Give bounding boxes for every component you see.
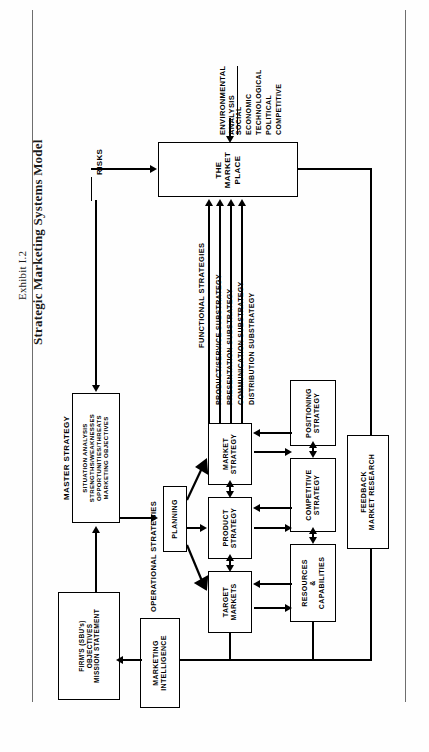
positioning-competitive-head-up — [309, 441, 317, 448]
functional-strategies-label: FUNCTIONAL STRATEGIES — [198, 243, 207, 348]
node-planning-label: PLANNING — [171, 499, 179, 538]
env-factor-economic: ECONOMIC — [245, 94, 253, 135]
node-market-strategy[interactable]: MARKET STRATEGY — [208, 423, 252, 485]
feedback-bottom-bus — [168, 659, 372, 661]
functional-arrow-1-head — [205, 199, 213, 206]
functional-arrow-4-shaft — [241, 205, 243, 423]
target-to-resources-shaft — [254, 607, 286, 609]
risks-arrow-head — [150, 165, 157, 173]
env-factor-political: POLITICAL — [265, 95, 273, 135]
planning-to-product-shaft — [187, 527, 201, 529]
node-target-markets-label: TARGET MARKETS — [222, 583, 239, 620]
node-feedback-market-research[interactable]: FEEDBACK MARKET RESEARCH — [347, 435, 389, 549]
node-marketplace[interactable]: THE MARKET PLACE — [158, 142, 298, 197]
node-feedback-market-research-label: FEEDBACK MARKET RESEARCH — [360, 454, 377, 530]
positioning-competitive-head-down — [309, 451, 317, 458]
target-to-resources-head — [285, 604, 292, 612]
positioning-to-market-head — [253, 429, 260, 437]
competitive-resources-head-up — [309, 527, 317, 534]
resources-to-target-head — [253, 580, 260, 588]
marketplace-to-feedback-down-shaft — [370, 168, 372, 436]
firm-to-master-head — [92, 526, 100, 533]
competitive-to-product-shaft — [260, 507, 292, 509]
functional-arrow-3-shaft — [230, 205, 232, 423]
node-market-strategy-label: MARKET STRATEGY — [222, 434, 239, 474]
page-rule-right — [405, 10, 406, 702]
node-marketing-intelligence[interactable]: MARKETING INTELLIGENCE — [140, 618, 180, 708]
node-target-markets[interactable]: TARGET MARKETS — [208, 571, 252, 633]
env-factor-competitive: COMPETITIVE — [275, 84, 283, 135]
node-resources-capabilities-label: RESOURCES & CAPABILITIES — [301, 557, 326, 609]
intelligence-to-firm-shaft — [122, 659, 142, 661]
risks-arrow-shaft — [91, 168, 153, 170]
planning-to-target-arrowhead — [196, 577, 207, 589]
planning-to-product-head — [200, 524, 207, 532]
node-planning[interactable]: PLANNING — [163, 486, 187, 552]
functional-arrow-1-shaft — [208, 205, 210, 423]
node-marketing-intelligence-label: MARKETING INTELLIGENCE — [152, 635, 169, 691]
master-to-planning-head — [151, 514, 158, 522]
planning-to-target-line — [187, 545, 202, 581]
node-resources-capabilities[interactable]: RESOURCES & CAPABILITIES — [290, 544, 336, 622]
risks-stub-line — [91, 177, 92, 201]
feedback-to-bus-shaft — [370, 549, 372, 661]
exhibit-number: Exhibit I.2 — [16, 251, 28, 300]
target-markets-to-bus-shaft — [229, 633, 231, 659]
functional-arrow-3-head — [227, 199, 235, 206]
env-factor-technological: TECHNOLOGICAL — [255, 69, 263, 135]
resources-to-bus-shaft — [312, 622, 314, 659]
node-competitive-strategy[interactable]: COMPETITIVE STRATEGY — [290, 458, 336, 532]
competitive-resources-head-down — [309, 537, 317, 544]
intelligence-to-firm-head — [116, 656, 123, 664]
positioning-to-market-shaft — [260, 432, 292, 434]
market-product-link-head-up — [226, 480, 234, 487]
product-to-competitive-head — [285, 524, 292, 532]
master-to-planning-shaft — [120, 517, 154, 519]
master-strategy-label: MASTER STRATEGY — [62, 416, 71, 500]
product-target-link-head-down — [226, 565, 234, 572]
functional-arrow-2-shaft — [219, 205, 221, 423]
functional-arrow-4-head — [238, 199, 246, 206]
risks-to-master-shaft — [95, 200, 97, 386]
market-product-link-head-down — [226, 491, 234, 498]
node-master-strategy[interactable]: SITUATION ANALYSIS STRENGTHS/WEAKNESSES … — [72, 393, 120, 523]
node-positioning-strategy[interactable]: POSITIONING STRATEGY — [290, 380, 336, 446]
node-competitive-strategy-label: COMPETITIVE STRATEGY — [305, 469, 322, 520]
planning-to-market-arrowhead — [197, 460, 207, 473]
resources-to-target-shaft — [260, 583, 292, 585]
node-product-strategy-label: PRODUCT STRATEGY — [222, 508, 239, 548]
market-to-positioning-shaft — [254, 451, 286, 453]
firm-to-master-shaft — [95, 532, 97, 592]
node-product-strategy[interactable]: PRODUCT STRATEGY — [208, 497, 252, 559]
functional-substrategy-distribution: DISTRIBUTION SUBSTRATEGY — [248, 293, 256, 406]
exhibit-page: Exhibit I.2 Strategic Marketing Systems … — [0, 0, 429, 752]
marketplace-to-feedback-top-shaft — [298, 168, 372, 170]
exhibit-title: Strategic Marketing Systems Model — [30, 139, 46, 345]
risks-label: RISKS — [95, 149, 104, 175]
functional-arrow-2-head — [216, 199, 224, 206]
env-factor-social: SOCIAL — [235, 106, 243, 135]
node-marketplace-label: THE MARKET PLACE — [214, 151, 242, 187]
environment-arrow-shaft — [229, 118, 231, 138]
page-rule-left — [32, 10, 33, 702]
competitive-to-product-head — [253, 504, 260, 512]
risks-to-master-head — [92, 385, 100, 392]
node-firm-objectives[interactable]: FIRM'S (SBU's) OBJECTIVES MISSION STATEM… — [58, 592, 120, 700]
product-target-link-head-up — [226, 554, 234, 561]
node-firm-objectives-label: FIRM'S (SBU's) OBJECTIVES MISSION STATEM… — [78, 609, 101, 683]
node-positioning-strategy-label: POSITIONING STRATEGY — [305, 388, 322, 438]
product-to-competitive-shaft — [254, 527, 286, 529]
node-master-strategy-label: SITUATION ANALYSIS STRENGTHS/WEAKNESSES … — [82, 414, 110, 502]
planning-to-market-line — [187, 468, 202, 500]
market-to-positioning-head — [285, 448, 292, 456]
